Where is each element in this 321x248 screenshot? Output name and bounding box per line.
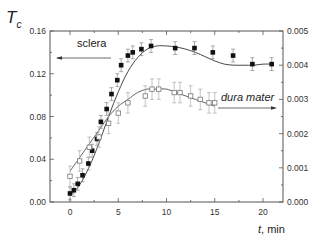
dura-mater-data-point xyxy=(126,93,130,114)
sclera-data-point xyxy=(173,42,178,55)
dura-mater-data-point xyxy=(150,79,154,100)
sclera-data-point xyxy=(80,169,85,182)
sclera-data-point xyxy=(139,43,144,56)
arrow-right-icon xyxy=(271,106,277,109)
axis-ticks: 051015200.000.040.080.120.160.0000.0010.… xyxy=(29,26,308,217)
sclera-data-point xyxy=(126,49,131,62)
sclera-data-point xyxy=(211,46,216,59)
x-tick-label: 15 xyxy=(210,207,220,217)
dura-mater-data-point xyxy=(207,93,211,114)
sclera-data-point xyxy=(250,58,255,71)
sclera-data-point xyxy=(109,88,114,101)
y-right-tick-label: 0.003 xyxy=(287,94,309,104)
dura-mater-data-point xyxy=(106,113,110,134)
y-left-tick-label: 0.12 xyxy=(29,69,46,79)
x-axis-title: t, min xyxy=(258,223,285,235)
sclera-data-point xyxy=(119,59,124,72)
dura-mater-data-point xyxy=(213,93,217,114)
sclera-data-point xyxy=(269,58,274,71)
dura-mater-data-point xyxy=(77,151,81,172)
dura-mater-data-point xyxy=(188,86,192,107)
x-tick-label: 20 xyxy=(258,207,268,217)
sclera-data-point xyxy=(149,40,154,53)
dura-mater-data-point xyxy=(198,89,202,110)
y-right-tick-label: 0.001 xyxy=(287,163,309,173)
sclera-label: sclera xyxy=(77,37,107,49)
y-right-tick-label: 0.002 xyxy=(287,129,309,139)
sclera-data-point xyxy=(231,49,236,62)
dura-mater-data-point xyxy=(87,137,91,158)
chart-canvas: 051015200.000.040.080.120.160.0000.0010.… xyxy=(0,0,321,248)
sclera-data-point xyxy=(130,46,135,59)
y-axis-title: Tc xyxy=(6,8,21,30)
y-left-tick-label: 0.00 xyxy=(29,197,46,207)
dura-mater-data-point xyxy=(178,82,182,103)
dura-mater-label: dura mater xyxy=(221,91,276,103)
y-right-tick-label: 0.004 xyxy=(287,60,309,70)
y-left-tick-label: 0.04 xyxy=(29,154,46,164)
sclera-data-point xyxy=(86,157,91,170)
y-left-tick-label: 0.08 xyxy=(29,112,46,122)
dura-mater-data-point xyxy=(172,82,176,103)
dura-mater-data-point xyxy=(116,103,120,124)
data-points xyxy=(68,40,274,200)
x-tick-label: 10 xyxy=(162,207,172,217)
dura-mater-fit-curve xyxy=(70,89,215,171)
y-left-tick-label: 0.16 xyxy=(29,26,46,36)
dura-mater-data-point xyxy=(97,127,101,148)
sclera-data-point xyxy=(99,115,104,128)
sclera-data-point xyxy=(115,74,120,87)
x-tick-label: 0 xyxy=(68,207,73,217)
y-right-tick-label: 0.005 xyxy=(287,26,309,36)
x-tick-label: 5 xyxy=(116,207,121,217)
y-right-tick-label: 0.000 xyxy=(287,197,309,207)
arrow-left-icon xyxy=(56,56,62,59)
dura-mater-data-point xyxy=(157,79,161,100)
